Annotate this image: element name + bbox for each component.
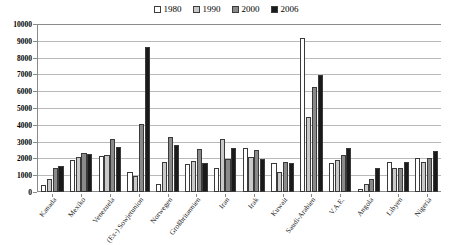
bar bbox=[41, 185, 46, 192]
bar bbox=[133, 176, 138, 192]
bar bbox=[139, 124, 144, 192]
bar bbox=[341, 155, 346, 192]
x-axis-tick-label: Iran bbox=[218, 196, 232, 210]
bar bbox=[191, 161, 196, 192]
bar bbox=[289, 163, 294, 192]
y-axis-tick-label: 0 bbox=[28, 188, 32, 197]
bar bbox=[387, 162, 392, 192]
bar bbox=[364, 184, 369, 192]
x-axis-tick-label: Kanada bbox=[38, 196, 58, 219]
bar bbox=[185, 164, 190, 192]
bar-group bbox=[268, 24, 297, 192]
bar-group bbox=[38, 24, 67, 192]
bar bbox=[225, 159, 230, 192]
bar bbox=[174, 145, 179, 192]
y-axis-tick-label: 10000 bbox=[13, 20, 32, 29]
bars-layer bbox=[38, 24, 441, 192]
y-axis: 0100020003000400050006000700080009000100… bbox=[0, 24, 34, 192]
y-axis-tick-mark bbox=[33, 192, 37, 193]
bar bbox=[415, 158, 420, 192]
bar bbox=[76, 157, 81, 192]
bar bbox=[358, 189, 363, 192]
x-axis-tick: V.A.E. bbox=[326, 194, 355, 245]
bar bbox=[375, 168, 380, 192]
x-axis-tick-label: V.A.E. bbox=[328, 196, 347, 217]
bar bbox=[283, 162, 288, 192]
bar bbox=[335, 160, 340, 192]
bar-group bbox=[96, 24, 125, 192]
bar bbox=[421, 162, 426, 192]
bar bbox=[392, 168, 397, 192]
bar bbox=[231, 148, 236, 192]
bar bbox=[127, 172, 132, 192]
bar-chart: 1980199020002006 01000200030004000500060… bbox=[0, 0, 452, 245]
bar bbox=[318, 75, 323, 192]
legend-item: 1980 bbox=[154, 5, 182, 14]
bar bbox=[346, 148, 351, 192]
bar bbox=[47, 179, 52, 192]
bar bbox=[254, 150, 259, 192]
legend-swatch-icon bbox=[271, 6, 278, 13]
x-axis-tick-label: Angola bbox=[356, 196, 376, 218]
x-axis-tick: Irak bbox=[239, 194, 268, 245]
legend-swatch-icon bbox=[232, 6, 239, 13]
x-axis-tick-label: Venezuela bbox=[91, 196, 116, 225]
legend-item: 1990 bbox=[193, 5, 221, 14]
x-axis-tick: Angola bbox=[355, 194, 384, 245]
y-axis-tick-label: 2000 bbox=[17, 154, 32, 163]
y-axis-tick-label: 6000 bbox=[17, 87, 32, 96]
bar bbox=[433, 151, 438, 192]
legend-label: 2000 bbox=[242, 5, 260, 14]
bar bbox=[248, 157, 253, 192]
x-axis-tick: Kanada bbox=[38, 194, 67, 245]
bar bbox=[87, 154, 92, 192]
bar bbox=[58, 166, 63, 192]
bar bbox=[398, 168, 403, 192]
bar bbox=[70, 160, 75, 192]
bar bbox=[116, 147, 121, 192]
bar bbox=[81, 153, 86, 192]
x-axis-tick-label: Norwegen bbox=[149, 196, 174, 225]
bar bbox=[145, 47, 150, 192]
bar bbox=[243, 148, 248, 192]
bar-group bbox=[326, 24, 355, 192]
legend-label: 1990 bbox=[203, 5, 221, 14]
bar bbox=[104, 155, 109, 192]
bar bbox=[300, 38, 305, 192]
legend-label: 1980 bbox=[164, 5, 182, 14]
bar bbox=[168, 137, 173, 192]
bar-group bbox=[383, 24, 412, 192]
bar bbox=[53, 168, 58, 192]
bar bbox=[427, 158, 432, 192]
x-axis-tick-label: Irak bbox=[246, 196, 260, 210]
y-axis-tick-label: 7000 bbox=[17, 70, 32, 79]
bar bbox=[99, 156, 104, 192]
legend-item: 2006 bbox=[271, 5, 299, 14]
y-axis-tick-label: 4000 bbox=[17, 120, 32, 129]
bar bbox=[306, 117, 311, 192]
x-axis-tick: Iran bbox=[211, 194, 240, 245]
bar-group bbox=[182, 24, 211, 192]
y-axis-tick-label: 1000 bbox=[17, 171, 32, 180]
bar-group bbox=[153, 24, 182, 192]
bar bbox=[271, 163, 276, 192]
x-axis-tick: Nigeria bbox=[412, 194, 441, 245]
bar-group bbox=[239, 24, 268, 192]
x-axis-tick-label: Libyen bbox=[385, 196, 404, 217]
legend-swatch-icon bbox=[193, 6, 200, 13]
bar bbox=[369, 179, 374, 192]
legend-item: 2000 bbox=[232, 5, 260, 14]
bar bbox=[329, 163, 334, 192]
legend-swatch-icon bbox=[154, 6, 161, 13]
x-axis-tick-label: Mexiko bbox=[67, 196, 87, 219]
bar bbox=[197, 149, 202, 192]
bar bbox=[220, 139, 225, 192]
bar-group bbox=[412, 24, 441, 192]
y-axis-tick-label: 9000 bbox=[17, 36, 32, 45]
bar bbox=[202, 163, 207, 192]
bar bbox=[156, 184, 161, 192]
bar bbox=[162, 162, 167, 192]
x-axis-tick: Großbritannien bbox=[182, 194, 211, 245]
chart-legend: 1980199020002006 bbox=[0, 5, 452, 14]
x-axis-tick: Libyen bbox=[383, 194, 412, 245]
